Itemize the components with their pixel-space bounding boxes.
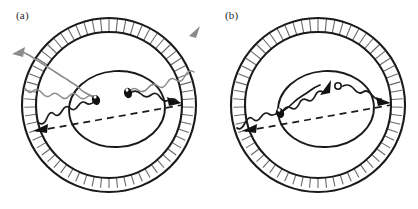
panel-b-drawing [209,0,418,209]
panel-b: (b) [209,0,418,209]
arrowhead-mid-path [320,80,331,95]
inner-ellipse [66,68,167,151]
inner-shell-rim [36,32,182,178]
gray-arrow-upper-right [189,26,200,38]
inner-ellipse [275,68,376,151]
black-wavy-ray-right [343,85,381,100]
dashed-chord [36,105,182,131]
panel-b-label: (b) [225,9,238,21]
gray-arrow-upper-left [12,47,25,57]
particle-open-circle [335,83,341,89]
panel-a-label: (a) [16,9,29,21]
dashed-chord [245,105,391,131]
arrowhead-lower-left [33,124,48,133]
shell-hatch-ticks [24,18,193,188]
panel-a-drawing [0,0,209,209]
shell-hatch-ticks [233,18,402,188]
inner-shell-rim [245,32,391,178]
panel-a: (a) [0,0,209,209]
black-wavy-ray-mid-detail [283,91,323,111]
black-wavy-ray-left [39,101,95,124]
figure-root: (a) [0,0,418,209]
